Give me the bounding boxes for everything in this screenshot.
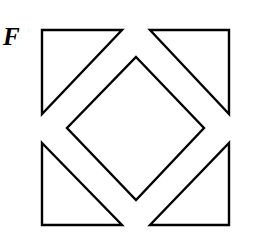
bottom-right-triangle [150, 143, 229, 225]
geometric-figure [0, 0, 254, 246]
top-left-triangle [42, 30, 122, 114]
center-diamond [67, 57, 204, 200]
top-right-triangle [150, 30, 229, 114]
bottom-left-triangle [42, 143, 122, 225]
